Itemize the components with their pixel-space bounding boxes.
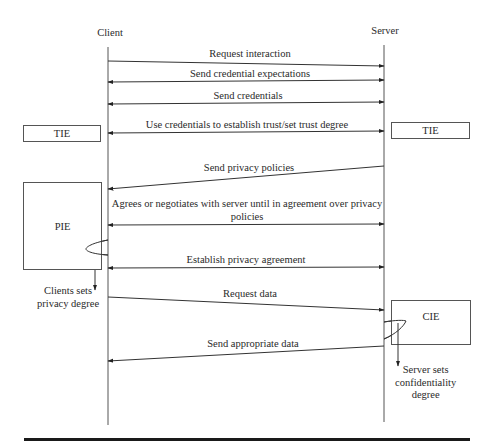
arrow-send-credentials: [108, 102, 384, 104]
msg-agrees-negotiates-line2: policies: [231, 211, 264, 223]
msg-send-appropriate-data: Send appropriate data: [207, 338, 299, 350]
client-note-line1: Clients sets: [37, 285, 99, 298]
pie-box: PIE: [23, 182, 102, 270]
sequence-diagram: Client Server Request interaction Send c…: [0, 0, 493, 446]
arrow-send-credential-expectations: [108, 80, 384, 82]
arrow-request-interaction: [108, 61, 384, 66]
server-note-line3: degree: [395, 389, 456, 402]
msg-send-privacy-policies: Send privacy policies: [204, 162, 294, 174]
tie-box-left: TIE: [23, 125, 101, 142]
bottom-rule: [24, 438, 470, 441]
arrow-use-credentials: [108, 131, 384, 133]
msg-use-credentials: Use credentials to establish trust/set t…: [146, 119, 348, 131]
tie-box-right: TIE: [391, 122, 470, 139]
msg-agrees-negotiates-line1: Agrees or negotiates with server until i…: [112, 198, 382, 210]
arrow-establish-privacy-agreement: [108, 267, 384, 268]
arrow-agrees-negotiates: [108, 224, 384, 225]
client-label: Client: [97, 27, 123, 39]
server-note-line1: Server sets: [395, 364, 456, 377]
cie-box: CIE: [391, 300, 471, 345]
msg-send-credentials: Send credentials: [213, 90, 282, 102]
server-note: Server sets confidentiality degree: [395, 364, 456, 402]
client-note-line2: privacy degree: [37, 298, 99, 311]
server-note-line2: confidentiality: [395, 377, 456, 390]
msg-establish-privacy-agreement: Establish privacy agreement: [187, 254, 306, 266]
server-label: Server: [371, 25, 398, 37]
client-note: Clients sets privacy degree: [37, 285, 99, 310]
msg-send-credential-expectations: Send credential expectations: [190, 68, 310, 80]
msg-request-data: Request data: [223, 288, 277, 300]
msg-request-interaction: Request interaction: [209, 48, 290, 60]
